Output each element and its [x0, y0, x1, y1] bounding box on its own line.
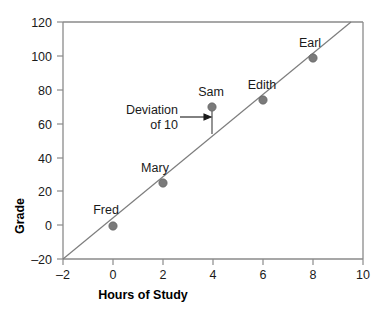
x-tick-label-0: 0	[110, 268, 117, 282]
axes-group	[63, 22, 363, 259]
data-points-group	[109, 54, 317, 230]
x-tick-label-4: 4	[210, 268, 217, 282]
data-point-earl[interactable]	[309, 54, 317, 62]
y-tick-label-neg20: –20	[31, 253, 52, 267]
y-tick-label-20: 20	[38, 185, 52, 199]
y-tick-label-60: 60	[38, 118, 52, 132]
deviation-annotation: Deviation of 10	[126, 103, 212, 134]
y-tick-label-80: 80	[38, 84, 52, 98]
deviation-arrow-head	[204, 114, 211, 120]
y-tick-label-120: 120	[31, 16, 52, 30]
deviation-label-line1: Deviation	[126, 103, 178, 117]
scatter-chart: 120 100 80 60 40 20 0 –20 –2 0 2 4 6 8 1	[0, 0, 383, 313]
data-label-sam: Sam	[198, 85, 224, 99]
deviation-label-line2: of 10	[150, 118, 178, 132]
data-label-fred: Fred	[93, 203, 119, 217]
x-tick-label-neg2: –2	[56, 268, 70, 282]
data-label-edith: Edith	[248, 78, 277, 92]
regression-line	[63, 22, 351, 259]
x-tick-label-10: 10	[356, 268, 370, 282]
data-point-sam[interactable]	[208, 103, 216, 111]
x-tick-labels: –2 0 2 4 6 8 10	[56, 268, 370, 282]
y-axis-title: Grade	[13, 198, 27, 234]
y-tick-labels: 120 100 80 60 40 20 0 –20	[31, 16, 52, 267]
x-tick-marks	[63, 259, 363, 265]
y-tick-label-0: 0	[45, 219, 52, 233]
y-tick-marks	[57, 22, 63, 259]
x-axis-title: Hours of Study	[98, 288, 188, 302]
y-tick-label-100: 100	[31, 50, 52, 64]
x-tick-label-8: 8	[310, 268, 317, 282]
chart-canvas: 120 100 80 60 40 20 0 –20 –2 0 2 4 6 8 1	[0, 0, 383, 313]
data-label-mary: Mary	[141, 161, 170, 175]
data-point-edith[interactable]	[259, 96, 267, 104]
data-label-earl: Earl	[299, 36, 321, 50]
y-tick-label-40: 40	[38, 152, 52, 166]
data-point-labels: Fred Mary Sam Edith Earl	[93, 36, 321, 217]
data-point-fred[interactable]	[109, 222, 117, 230]
data-point-mary[interactable]	[159, 179, 167, 187]
x-tick-label-6: 6	[260, 268, 267, 282]
x-tick-label-2: 2	[160, 268, 167, 282]
